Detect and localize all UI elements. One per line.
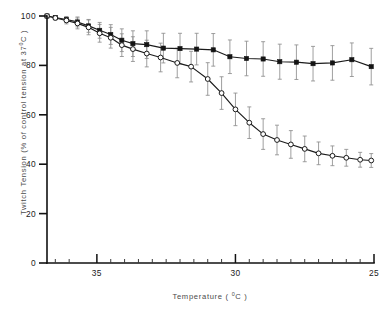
- data-point-marker: [244, 56, 248, 60]
- data-point-marker: [294, 60, 298, 64]
- x-tick-label: 25: [369, 268, 379, 278]
- data-point-marker: [247, 120, 252, 125]
- data-point-marker: [131, 42, 135, 46]
- data-point-marker: [275, 138, 280, 143]
- data-point-marker: [144, 51, 149, 56]
- data-point-marker: [189, 64, 194, 69]
- x-axis: 353025: [47, 254, 379, 278]
- data-point-marker: [219, 91, 224, 96]
- data-point-marker: [369, 158, 374, 163]
- x-tick-label: 35: [92, 268, 102, 278]
- data-point-marker: [233, 107, 238, 112]
- markers-upper: [45, 14, 373, 69]
- data-point-marker: [120, 38, 124, 42]
- data-point-marker: [161, 46, 165, 50]
- data-point-marker: [75, 21, 80, 26]
- data-point-marker: [316, 151, 321, 156]
- series-line-upper: [47, 16, 371, 67]
- data-point-marker: [330, 61, 334, 65]
- data-point-marker: [344, 155, 349, 160]
- y-axis-title: Twitch Tension (% of control tension at …: [18, 30, 28, 215]
- data-point-marker: [64, 18, 69, 23]
- markers-lower: [45, 14, 374, 163]
- data-point-marker: [311, 62, 315, 66]
- data-point-marker: [145, 43, 149, 47]
- data-point-marker: [108, 35, 113, 40]
- data-point-marker: [261, 57, 265, 61]
- data-point-marker: [369, 65, 373, 69]
- chart-figure: 020406080100 353025 Twitch Tension (% of…: [0, 0, 388, 311]
- chart-plot-area: 020406080100 353025 Twitch Tension (% of…: [0, 0, 388, 311]
- data-point-marker: [175, 61, 180, 66]
- x-axis-title: Temperature ( 0C ): [172, 291, 247, 301]
- data-point-marker: [86, 25, 91, 30]
- data-point-marker: [119, 43, 124, 48]
- data-point-marker: [131, 47, 136, 52]
- data-point-marker: [302, 146, 307, 151]
- data-point-marker: [228, 55, 232, 59]
- y-tick-label: 100: [21, 11, 36, 21]
- y-tick-label: 0: [31, 258, 36, 268]
- x-tick-label: 30: [230, 268, 240, 278]
- y-axis-label: Twitch Tension (% of control tension at …: [18, 30, 28, 215]
- data-point-marker: [178, 47, 182, 51]
- data-point-marker: [278, 60, 282, 64]
- x-axis-label: Temperature ( 0C ): [172, 291, 247, 301]
- data-point-marker: [288, 142, 293, 147]
- data-point-marker: [97, 31, 102, 36]
- data-point-marker: [330, 153, 335, 158]
- data-point-marker: [350, 58, 354, 62]
- data-point-marker: [195, 47, 199, 51]
- data-point-marker: [261, 132, 266, 137]
- data-point-marker: [205, 77, 210, 82]
- data-point-marker: [53, 16, 58, 21]
- data-point-marker: [158, 55, 163, 60]
- series-line-lower: [47, 16, 371, 161]
- data-point-marker: [358, 157, 363, 162]
- data-point-marker: [211, 48, 215, 52]
